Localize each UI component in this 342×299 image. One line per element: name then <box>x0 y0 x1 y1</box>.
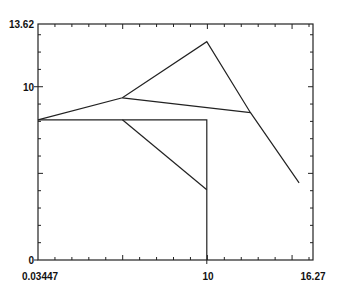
series-segment-2 <box>122 98 250 113</box>
x-mid-label: 10 <box>202 271 214 282</box>
data-lines <box>38 42 299 260</box>
series-segment-4 <box>122 120 206 190</box>
plot-frame <box>38 24 313 260</box>
y-min-label: 0 <box>28 255 34 266</box>
axis-ticks <box>34 24 313 264</box>
y-max-label: 13.62 <box>9 19 34 30</box>
x-max-label: 16.27 <box>300 271 325 282</box>
x-min-label: 0.03447 <box>22 271 59 282</box>
series-polyline-1 <box>38 42 299 183</box>
series-polyline-3 <box>38 120 207 260</box>
y-mid-label: 10 <box>23 82 35 93</box>
chart: 13.62 10 0 0.03447 10 16.27 <box>0 0 342 299</box>
